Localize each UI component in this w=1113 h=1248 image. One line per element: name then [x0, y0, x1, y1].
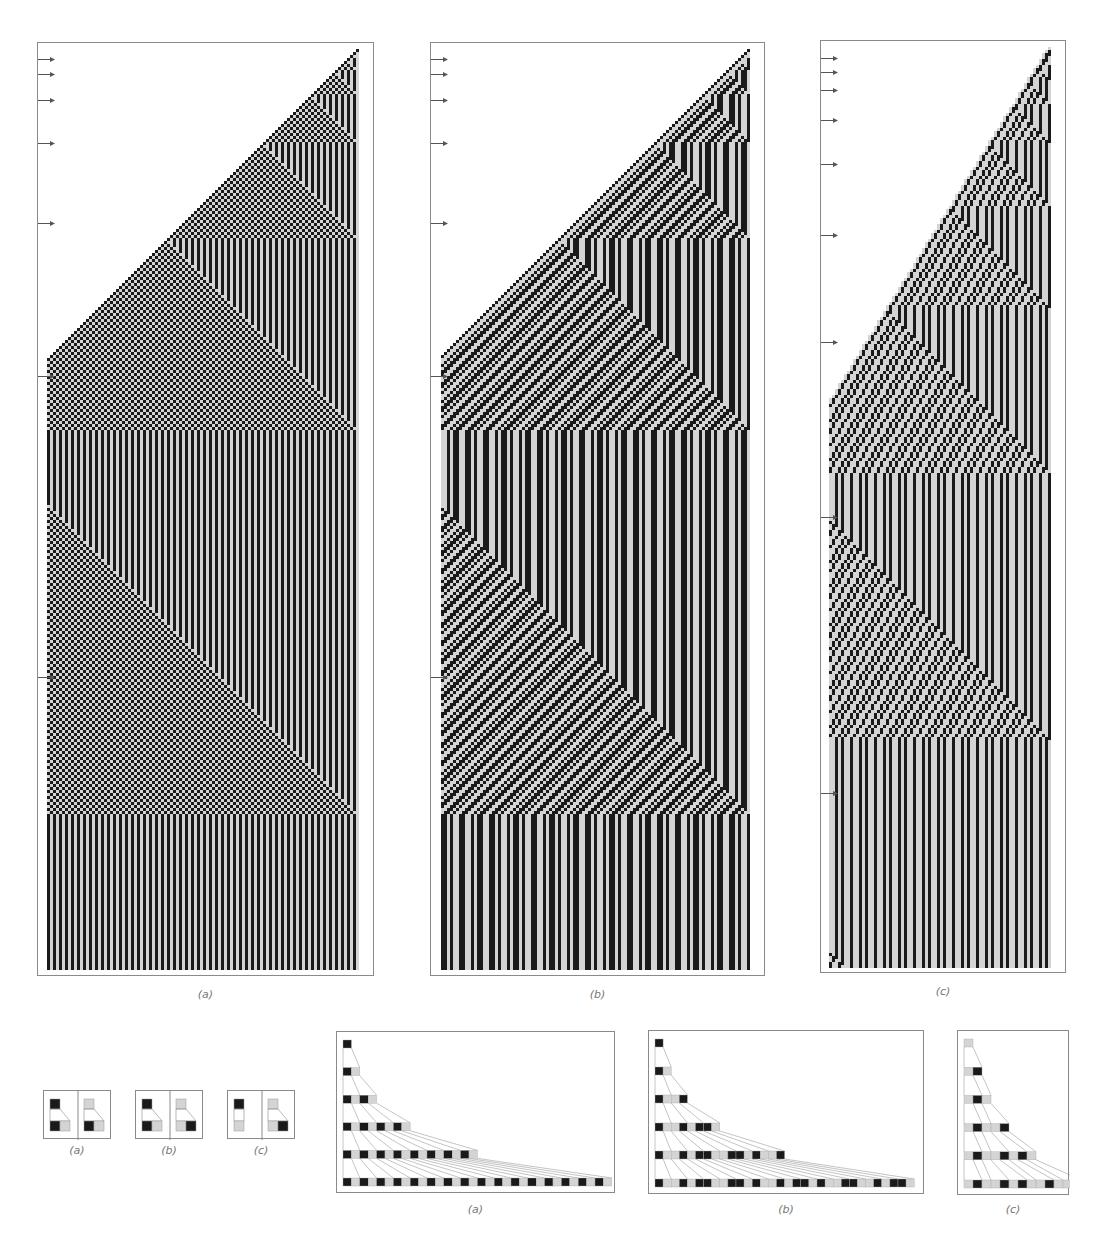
step-arrow-icon [821, 223, 839, 242]
cell-evolution-canvas [821, 41, 1067, 974]
sequential-substitution-panel-a [37, 42, 374, 976]
step-arrow-icon [431, 364, 449, 383]
step-arrow-icon [431, 131, 449, 150]
cell-evolution-canvas [431, 43, 766, 977]
step-arrow-icon [38, 211, 56, 230]
step-arrow-icon [821, 505, 839, 524]
step-arrow-icon [431, 62, 449, 81]
sequential-substitution-panel-b [430, 42, 765, 976]
step-arrow-icon [821, 152, 839, 171]
evolution-caption-a: (a) [446, 1203, 506, 1216]
step-arrow-icon [821, 78, 839, 97]
step-arrow-icon [38, 364, 56, 383]
step-arrow-icon [431, 88, 449, 107]
rule-icon-c [227, 1090, 295, 1139]
step-arrow-icon [38, 665, 56, 684]
rule-caption-a: (a) [47, 1144, 107, 1157]
substitution-evolution-c [957, 1030, 1069, 1195]
panel-caption-b: (b) [568, 988, 628, 1001]
rule-caption-b: (b) [139, 1144, 199, 1157]
rule-icon-b [135, 1090, 203, 1139]
cell-evolution-canvas [38, 43, 375, 977]
step-arrow-icon [38, 62, 56, 81]
sequential-substitution-panel-c [820, 40, 1066, 973]
step-arrow-icon [821, 330, 839, 349]
panel-caption-c: (c) [913, 985, 973, 998]
step-arrow-icon [431, 665, 449, 684]
substitution-evolution-b [648, 1030, 924, 1194]
panel-caption-a: (a) [176, 988, 236, 1001]
rule-icon-a [43, 1090, 111, 1139]
step-arrow-icon [38, 88, 56, 107]
step-arrow-icon [821, 60, 839, 79]
step-arrow-icon [821, 108, 839, 127]
step-arrow-icon [431, 211, 449, 230]
evolution-caption-b: (b) [756, 1203, 816, 1216]
rule-caption-c: (c) [231, 1144, 291, 1157]
step-arrow-icon [38, 131, 56, 150]
step-arrow-icon [821, 781, 839, 800]
substitution-evolution-a [336, 1031, 615, 1193]
evolution-caption-c: (c) [983, 1203, 1043, 1216]
